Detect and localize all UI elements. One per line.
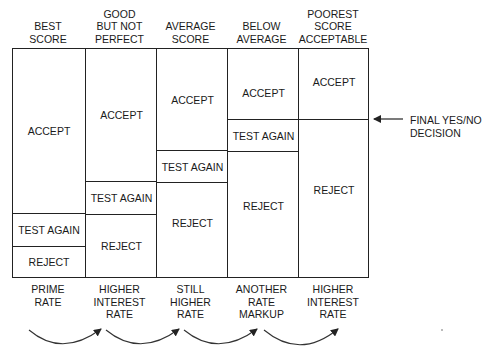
arrows-overlay — [0, 0, 492, 356]
curved-arrow-icon — [29, 329, 338, 345]
speck-mark — [441, 329, 443, 331]
